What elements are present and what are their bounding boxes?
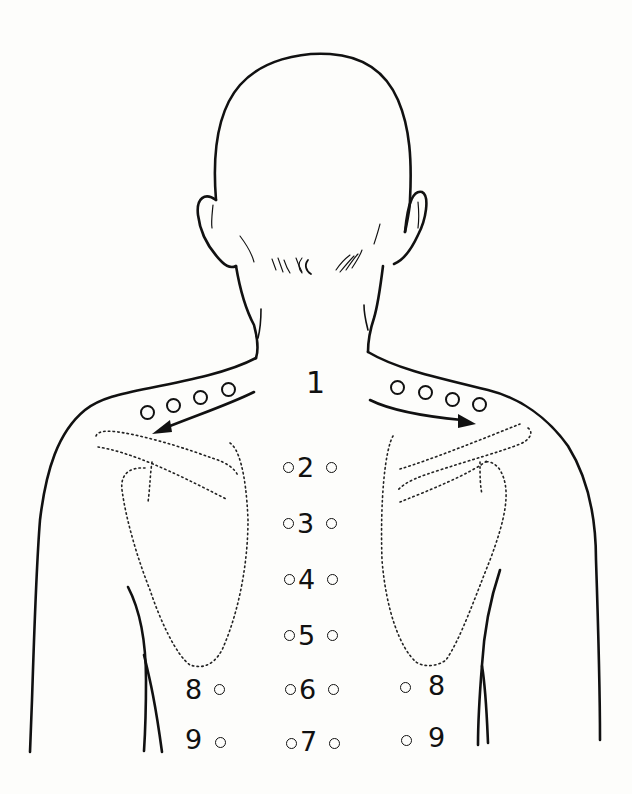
spine-point-right xyxy=(326,518,337,529)
point-label-5: 5 xyxy=(298,622,315,649)
neck-left xyxy=(236,266,257,358)
left-shoulder-point xyxy=(221,382,236,397)
spine-point-left xyxy=(286,738,297,749)
lower-left-point-8 xyxy=(214,684,225,695)
point-label-9-right: 9 xyxy=(428,724,445,751)
left-ear xyxy=(198,196,236,267)
spine-point-left xyxy=(284,630,295,641)
right-ear xyxy=(394,192,426,264)
point-label-7: 7 xyxy=(300,728,317,755)
point-label-9-left: 9 xyxy=(185,726,202,753)
right-inner-arm-line xyxy=(478,570,500,745)
point-label-2: 2 xyxy=(297,454,314,481)
back-points-diagram: 1 2 3 4 5 6 7 8 9 8 9 xyxy=(0,0,632,794)
left-inner-arm-line xyxy=(128,587,146,751)
right-shoulder-point xyxy=(472,397,487,412)
spine-point-left xyxy=(283,518,294,529)
point-label-8-right: 8 xyxy=(428,672,445,699)
spine-point-right xyxy=(329,738,340,749)
spine-point-right xyxy=(328,684,339,695)
left-clavicle-outline xyxy=(96,431,238,476)
right-scapula-outline xyxy=(382,436,507,666)
right-shoulder-point xyxy=(445,392,460,407)
point-label-1: 1 xyxy=(306,368,325,398)
right-shoulder-point xyxy=(418,385,433,400)
head-outline xyxy=(215,54,411,232)
spine-point-left xyxy=(283,462,294,473)
spine-point-right xyxy=(327,574,338,585)
neck-right xyxy=(368,266,383,352)
lower-left-point-9 xyxy=(215,737,226,748)
left-shoulder-point xyxy=(166,398,181,413)
point-label-3: 3 xyxy=(297,510,314,537)
point-label-6: 6 xyxy=(299,676,316,703)
spine-point-left xyxy=(285,684,296,695)
spine-point-left xyxy=(284,574,295,585)
left-shoulder-point xyxy=(193,390,208,405)
lower-right-point-9 xyxy=(401,735,412,746)
point-label-4: 4 xyxy=(298,566,315,593)
left-scapula-outline xyxy=(122,443,248,666)
spine-point-right xyxy=(326,462,337,473)
left-shoulder-point xyxy=(140,405,155,420)
lower-right-point-8 xyxy=(400,682,411,693)
point-label-8-left: 8 xyxy=(185,676,202,703)
right-clavicle-outline xyxy=(398,428,531,490)
spine-point-right xyxy=(327,630,338,641)
right-shoulder-point xyxy=(390,380,405,395)
